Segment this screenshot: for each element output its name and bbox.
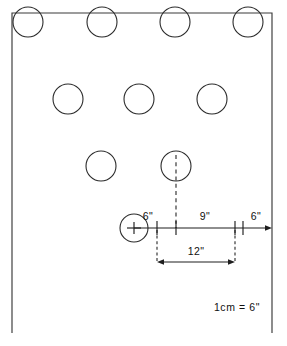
hole-circle	[53, 84, 83, 114]
span-arrow-right	[228, 259, 235, 264]
dimension-label-9in: 9"	[200, 210, 210, 222]
span-arrow-left	[157, 259, 164, 264]
dimension-label-6in-right: 6"	[251, 210, 261, 222]
hole-circle	[124, 84, 154, 114]
panel-outline	[12, 13, 272, 333]
hole-row-top	[13, 7, 263, 37]
hole-circle	[87, 7, 117, 37]
hole-layout-drawing: 6" 9" 6" 12" 1cm = 6"	[0, 0, 287, 346]
scale-note: 1cm = 6"	[214, 301, 260, 313]
hole-circle	[160, 7, 190, 37]
hole-circle	[13, 7, 43, 37]
hole-circle	[197, 84, 227, 114]
drawing-canvas: 6" 9" 6" 12" 1cm = 6"	[0, 0, 287, 346]
hole-circle	[86, 151, 116, 181]
dimension-arrow-right	[265, 225, 272, 230]
hole-row-lower	[86, 151, 191, 181]
hole-circle	[233, 7, 263, 37]
dimension-label-12in: 12"	[188, 245, 205, 257]
hole-row-middle	[53, 84, 227, 114]
dimension-label-6in-left: 6"	[143, 210, 153, 222]
